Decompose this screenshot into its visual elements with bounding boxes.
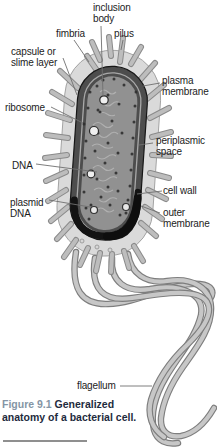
leader-fimbria [74, 40, 89, 62]
membrane-layers-shape [68, 64, 150, 242]
ribosome-dot [117, 152, 120, 155]
label-text: outer [163, 207, 210, 218]
ribosome-dot [119, 214, 122, 217]
ribosome-dot [90, 204, 93, 207]
ribosome-dot [109, 204, 112, 207]
ribosome-dot [88, 218, 91, 221]
label-ribosome: ribosome [5, 102, 45, 113]
label-pilus: pilus [114, 28, 134, 39]
label-text: DNA [10, 208, 43, 219]
label-plasma-membrane: plasma membrane [162, 75, 209, 97]
ribosome-dot [118, 103, 121, 106]
ribosome-dot [130, 169, 133, 172]
label-flagellum: flagellum [77, 380, 116, 391]
ribosome-dot [104, 162, 107, 165]
label-text: fimbria [56, 28, 85, 39]
label-periplasmic-space: periplasmic space [156, 135, 205, 157]
label-text: periplasmic [156, 135, 205, 146]
label-dna: DNA [12, 160, 33, 171]
ribosome-dot [123, 84, 126, 87]
ribosome-dot [107, 186, 110, 189]
label-cell-wall: cell wall [163, 185, 197, 196]
figure-number: Figure 9.1 [2, 398, 52, 410]
ribosome-dot [94, 150, 97, 153]
ribosome-dot [117, 190, 120, 193]
ribosome-dot [133, 121, 136, 124]
figure-caption: Figure 9.1 Generalized anatomy of a bact… [2, 398, 144, 424]
ribosome-dot [127, 199, 130, 202]
ribosome-dot [87, 107, 90, 110]
label-text: body [93, 13, 131, 24]
ribosome-dot [132, 137, 135, 140]
label-text: ribosome [5, 102, 45, 113]
label-text: membrane [163, 218, 210, 229]
label-text: pilus [114, 28, 134, 39]
ribosome-dot [96, 178, 99, 181]
ribosome-dot [107, 94, 110, 97]
ribosome-dot [131, 153, 134, 156]
ribosome-dot [83, 174, 86, 177]
label-plasmid-dna: plasmid DNA [10, 197, 43, 219]
label-text: inclusion [93, 2, 131, 13]
label-text: DNA [12, 160, 33, 171]
ribosome-dot [115, 172, 118, 175]
ribosome-dot [97, 109, 100, 112]
label-text: plasma [162, 75, 209, 86]
label-fimbria: fimbria [56, 28, 85, 39]
ribosome-dot [121, 132, 124, 135]
ribosome-dot [96, 85, 99, 88]
label-inclusion-body: inclusion body [93, 2, 131, 24]
label-text: space [156, 146, 205, 157]
label-text: slime layer [11, 57, 57, 68]
label-capsule-slime-layer: capsule or slime layer [11, 46, 57, 68]
ribosome-dot [85, 140, 88, 143]
ribosome-dot [134, 105, 137, 108]
label-outer-membrane: outer membrane [163, 207, 210, 229]
ribosome-dot [113, 78, 116, 81]
ribosome-dot [135, 91, 138, 94]
pilus-rod [109, 37, 111, 56]
label-text: plasmid [10, 197, 43, 208]
ribosome-dot [129, 185, 132, 188]
ribosome-dot [111, 120, 114, 123]
ribosome-dot [125, 212, 128, 215]
ribosome-dot [89, 91, 92, 94]
label-text: flagellum [77, 380, 116, 391]
label-text: membrane [162, 86, 209, 97]
ribosome-dot [84, 157, 87, 160]
ribosome-dot [83, 191, 86, 194]
bottom-rule [3, 440, 87, 442]
label-text: capsule or [11, 46, 57, 57]
ribosome-dot [100, 196, 103, 199]
ribosome-dot [107, 142, 110, 145]
label-text: cell wall [163, 185, 197, 196]
pilus-rod [111, 254, 112, 272]
figure-panel: inclusion body fimbria pilus capsule or … [0, 0, 217, 448]
